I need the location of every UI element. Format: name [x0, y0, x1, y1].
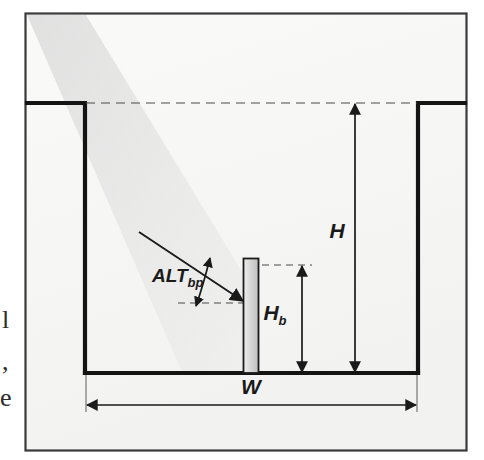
building-height-symbol: H: [263, 301, 279, 324]
solar-altitude-subscript: bp: [188, 275, 204, 290]
solar-altitude-symbol: ALT: [151, 265, 189, 286]
margin-fragment-1: l: [2, 305, 9, 334]
margin-fragment-2: ,: [2, 347, 9, 376]
figure-page: H Hb W ALTbp l , e: [0, 0, 484, 460]
street-canyon-figure: H Hb W ALTbp l , e: [0, 0, 484, 460]
canyon-width-label: W: [241, 375, 263, 398]
building-height-subscript: b: [279, 313, 287, 328]
building: [244, 259, 259, 374]
canyon-height-symbol: H: [329, 219, 345, 242]
canyon-height-label: H: [329, 219, 345, 242]
margin-fragment-3: e: [0, 383, 12, 412]
canyon-width-symbol: W: [241, 375, 263, 398]
